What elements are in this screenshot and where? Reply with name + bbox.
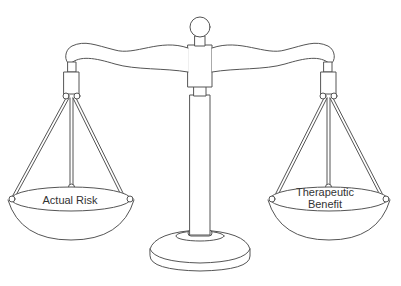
left-pan-label-text: Actual Risk	[42, 194, 97, 206]
right-pan-label-line2: Benefit	[290, 198, 360, 210]
scale-column	[188, 17, 212, 235]
right-pan-label: Therapeutic Benefit	[290, 186, 360, 210]
scale-base	[150, 230, 250, 271]
left-hanger	[12, 62, 125, 197]
left-pan-label: Actual Risk	[40, 194, 100, 206]
right-pan-label-line1: Therapeutic	[290, 186, 360, 198]
balance-scale-illustration	[0, 0, 401, 286]
right-hanger	[274, 62, 384, 197]
